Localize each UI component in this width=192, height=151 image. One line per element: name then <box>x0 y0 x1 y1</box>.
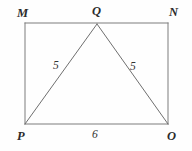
measure-label-side-right: 5 <box>130 61 136 73</box>
vertex-label-P: P <box>17 130 25 143</box>
vertex-label-N: N <box>169 6 178 19</box>
geometry-figure: M Q N P O 5 5 6 <box>0 0 192 151</box>
segment-QO <box>97 24 168 124</box>
measure-label-side-left: 5 <box>53 60 59 72</box>
vertex-label-O: O <box>167 130 176 143</box>
vertex-label-M: M <box>17 7 28 20</box>
measure-label-base: 6 <box>92 129 98 141</box>
vertex-label-Q: Q <box>92 5 101 18</box>
segment-PQ <box>25 24 97 124</box>
